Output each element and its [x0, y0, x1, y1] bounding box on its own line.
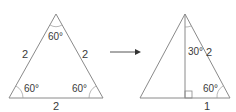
right-triangle: 30° 2 60° 1 — [140, 14, 230, 112]
right-angle-marker — [185, 91, 192, 98]
right-half-base-label: 1 — [204, 100, 210, 112]
diagram-canvas: 60° 60° 60° 2 2 2 30° 2 60° 1 — [0, 0, 236, 112]
left-bottom-left-angle-arc — [16, 86, 23, 98]
left-side-left-label: 2 — [22, 48, 28, 60]
left-bottom-right-angle-arc — [89, 86, 96, 98]
right-top-angle-arc — [185, 26, 191, 27]
right-angle-bottom: 60° — [203, 83, 218, 94]
left-side-base-label: 2 — [53, 100, 59, 112]
right-hypotenuse-label: 2 — [206, 46, 212, 58]
left-angle-top: 60° — [48, 31, 63, 42]
right-angle-top: 30° — [188, 46, 203, 57]
arrow-right-icon — [110, 49, 141, 55]
left-angle-bottom-left: 60° — [24, 83, 39, 94]
left-angle-bottom-right: 60° — [72, 83, 87, 94]
left-triangle: 60° 60° 60° 2 2 2 — [9, 14, 103, 112]
left-top-angle-arc — [50, 25, 62, 27]
left-side-right-label: 2 — [82, 48, 88, 60]
